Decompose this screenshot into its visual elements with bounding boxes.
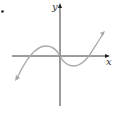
y-axis-arrow-icon bbox=[58, 3, 62, 8]
x-axis-label: x bbox=[106, 56, 112, 67]
curve-end-right-arrow-icon bbox=[100, 31, 105, 36]
item-bullet-icon bbox=[1, 10, 4, 13]
cubic-function-graph: y x bbox=[0, 0, 114, 113]
y-axis-label: y bbox=[51, 1, 58, 12]
